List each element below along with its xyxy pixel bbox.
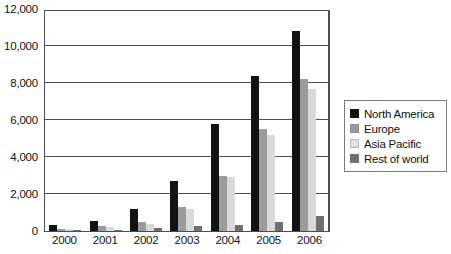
x-axis-tick-label: 2005 xyxy=(256,234,281,247)
y-axis-tick-label: 0 xyxy=(32,226,38,238)
y-axis-tick-label: 6,000 xyxy=(10,115,38,127)
bar-group-2002 xyxy=(130,11,162,231)
bar-2005-series-2 xyxy=(267,135,275,231)
x-axis-tick-label: 2003 xyxy=(175,234,200,247)
legend-item-label: Europe xyxy=(364,123,400,135)
x-axis-tick-label: 2000 xyxy=(52,234,77,247)
bar-2005-series-3 xyxy=(275,222,283,231)
bar-group-2005 xyxy=(251,11,283,231)
bar-2003-series-2 xyxy=(186,209,194,231)
bar-2002-series-0 xyxy=(130,209,138,231)
y-axis-tick-label: 12,000 xyxy=(4,4,38,16)
bars-layer xyxy=(45,11,328,231)
x-axis-tick-label: 2002 xyxy=(134,234,159,247)
bar-2000-series-0 xyxy=(49,225,57,231)
y-axis: 12,00010,0008,0006,0004,0002,0000 xyxy=(0,0,41,254)
bar-2000-series-3 xyxy=(73,230,81,231)
bar-group-2006 xyxy=(292,11,324,231)
bar-2005-series-0 xyxy=(251,76,259,231)
chart-legend: North AmericaEuropeAsia PacificRest of w… xyxy=(344,100,447,172)
bar-2001-series-1 xyxy=(98,226,106,231)
bar-group-2000 xyxy=(49,11,81,231)
bar-group-2001 xyxy=(90,11,122,231)
bar-2000-series-1 xyxy=(57,229,65,231)
y-axis-tick-label: 2,000 xyxy=(10,189,38,201)
bar-2002-series-2 xyxy=(146,224,154,231)
bar-group-2004 xyxy=(211,11,243,231)
bar-2004-series-1 xyxy=(219,176,227,232)
x-axis-tick-label: 2006 xyxy=(297,234,322,247)
legend-item-label: Asia Pacific xyxy=(364,138,421,150)
bar-2001-series-3 xyxy=(114,230,122,231)
legend-item[interactable]: Rest of world xyxy=(350,151,441,166)
legend-item[interactable]: Asia Pacific xyxy=(350,136,441,151)
legend-item[interactable]: Europe xyxy=(350,121,441,136)
bar-2006-series-0 xyxy=(292,31,300,231)
legend-item-label: Rest of world xyxy=(364,153,429,165)
legend-item-label: North America xyxy=(364,108,434,120)
legend-swatch-rest-of-world-icon xyxy=(350,154,359,163)
bar-2000-series-2 xyxy=(65,229,73,231)
bar-2005-series-1 xyxy=(259,129,267,231)
x-axis-tick-label: 2001 xyxy=(93,234,118,247)
bar-2004-series-0 xyxy=(211,124,219,231)
legend-swatch-europe-icon xyxy=(350,124,359,133)
bar-2006-series-1 xyxy=(300,79,308,231)
legend-swatch-north-america-icon xyxy=(350,109,359,118)
bar-2001-series-2 xyxy=(106,227,114,231)
bar-2003-series-3 xyxy=(194,226,202,231)
x-axis: 2000200120022003200420052006 xyxy=(44,234,330,252)
legend-swatch-asia-pacific-icon xyxy=(350,139,359,148)
bar-2003-series-0 xyxy=(170,181,178,231)
bar-2004-series-2 xyxy=(227,177,235,231)
bar-2006-series-2 xyxy=(308,89,316,231)
bar-2006-series-3 xyxy=(316,216,324,231)
legend-item[interactable]: North America xyxy=(350,106,441,121)
bar-2002-series-1 xyxy=(138,222,146,231)
bar-2001-series-0 xyxy=(90,221,98,231)
y-axis-tick-label: 10,000 xyxy=(4,41,38,53)
bar-2002-series-3 xyxy=(154,228,162,231)
plot-area xyxy=(44,10,330,232)
bar-group-2003 xyxy=(170,11,202,231)
bar-chart-figure: 12,00010,0008,0006,0004,0002,0000 200020… xyxy=(0,0,451,254)
y-axis-tick-label: 8,000 xyxy=(10,78,38,90)
bar-2003-series-1 xyxy=(178,207,186,231)
x-axis-tick-label: 2004 xyxy=(215,234,240,247)
bar-2004-series-3 xyxy=(235,225,243,231)
y-axis-tick-label: 4,000 xyxy=(10,152,38,164)
